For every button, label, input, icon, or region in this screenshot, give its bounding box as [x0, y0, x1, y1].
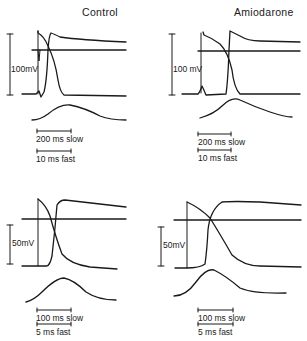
- voltage-scale-label-control: 100mV: [11, 64, 38, 74]
- slow-scale-label-bottom-right: 100 ms slow: [198, 313, 245, 323]
- slow-scale-label-control: 200 ms slow: [36, 134, 83, 144]
- panel-bottom-right-traces: [158, 202, 301, 327]
- figure-traces: [0, 0, 307, 341]
- panel-amiodarone-traces: [169, 31, 300, 152]
- voltage-scale-label-amiodarone: 100 mV: [173, 64, 202, 74]
- panel-bottom-left-traces: [7, 199, 126, 326]
- fast-scale-label-bottom-right: 5 ms fast: [198, 327, 232, 337]
- panel-title-amiodarone: Amiodarone: [234, 6, 294, 18]
- voltage-scale-label-bottom-right: 50mV: [163, 240, 185, 250]
- fast-scale-label-control: 10 ms fast: [36, 154, 75, 164]
- fast-scale-label-amiodarone: 10 ms fast: [198, 153, 237, 163]
- slow-scale-label-bottom-left: 100 ms slow: [36, 313, 83, 323]
- fast-scale-label-bottom-left: 5 ms fast: [36, 327, 70, 337]
- voltage-scale-label-bottom-left: 50mV: [12, 238, 34, 248]
- panel-title-control: Control: [82, 6, 118, 18]
- slow-scale-label-amiodarone: 200 ms slow: [198, 137, 245, 147]
